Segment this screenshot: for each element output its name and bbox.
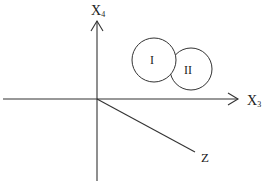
z-axis-label: Z [201, 151, 209, 164]
x4-label-main: X [91, 3, 101, 18]
diagram-canvas [0, 0, 265, 181]
x4-axis-label: X4 [91, 4, 105, 19]
region-i-circle [132, 38, 176, 82]
x3-label-main: X [247, 93, 257, 108]
region-i-label: I [150, 54, 154, 66]
x3-label-subscript: 3 [257, 100, 261, 109]
z-axis-line [97, 99, 195, 152]
region-ii-label: II [184, 64, 192, 76]
x3-axis-label: X3 [247, 94, 261, 109]
x4-label-subscript: 4 [101, 10, 105, 19]
